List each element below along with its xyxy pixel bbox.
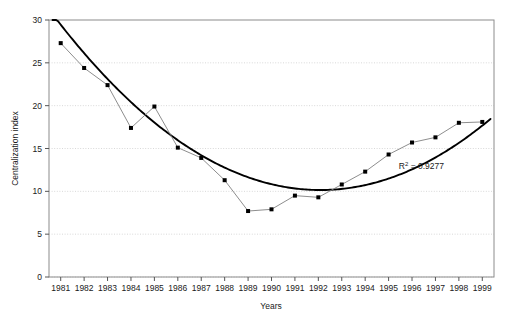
x-axis-ticks: [61, 277, 483, 281]
x-tick-label: 1996: [403, 283, 422, 293]
x-tick-label: 1999: [473, 283, 492, 293]
data-point-marker: [152, 105, 156, 109]
data-point-marker: [363, 170, 367, 174]
r-squared-suffix: = 0.9277: [408, 161, 444, 171]
x-tick-label: 1986: [168, 283, 187, 293]
x-tick-label: 1982: [75, 283, 94, 293]
y-tick-label: 10: [33, 186, 43, 196]
plot-background: [49, 20, 494, 277]
data-point-marker: [176, 146, 180, 150]
y-axis-tick-labels: 051015202530: [33, 15, 43, 282]
y-tick-label: 5: [37, 229, 42, 239]
data-point-marker: [457, 121, 461, 125]
x-tick-label: 1998: [449, 283, 468, 293]
x-tick-label: 1992: [309, 283, 328, 293]
data-point-marker: [340, 182, 344, 186]
x-axis-title: Years: [260, 301, 281, 311]
data-point-marker: [387, 152, 391, 156]
x-tick-label: 1989: [239, 283, 258, 293]
data-point-marker: [270, 207, 274, 211]
y-tick-label: 0: [37, 272, 42, 282]
data-point-marker: [480, 120, 484, 124]
x-tick-label: 1987: [192, 283, 211, 293]
x-tick-label: 1995: [379, 283, 398, 293]
y-axis-title-label: Centralization index: [10, 110, 20, 185]
x-tick-label: 1985: [145, 283, 164, 293]
data-point-marker: [246, 209, 250, 213]
x-tick-label: 1983: [98, 283, 117, 293]
x-axis-tick-labels: 1981198219831984198519861987198819891990…: [51, 283, 492, 293]
y-axis-ticks: [45, 20, 49, 277]
data-point-marker: [223, 178, 227, 182]
data-point-marker: [129, 126, 133, 130]
data-point-marker: [199, 156, 203, 160]
data-point-marker: [316, 195, 320, 199]
y-tick-label: 25: [33, 58, 43, 68]
x-tick-label: 1994: [356, 283, 375, 293]
x-tick-label: 1993: [332, 283, 351, 293]
data-point-marker: [410, 141, 414, 145]
x-tick-label: 1990: [262, 283, 281, 293]
data-point-marker: [293, 194, 297, 198]
y-tick-label: 30: [33, 15, 43, 25]
data-point-marker: [82, 66, 86, 70]
y-tick-label: 20: [33, 101, 43, 111]
x-tick-label: 1997: [426, 283, 445, 293]
x-tick-label: 1984: [122, 283, 141, 293]
y-axis-title: Centralization index: [10, 110, 20, 185]
x-tick-label: 1991: [285, 283, 304, 293]
chart-container: 051015202530 198119821983198419851986198…: [0, 0, 510, 328]
data-point-marker: [433, 135, 437, 139]
data-point-marker: [59, 41, 63, 45]
x-tick-label: 1988: [215, 283, 234, 293]
x-axis-title-label: Years: [260, 301, 281, 311]
data-point-marker: [106, 83, 110, 87]
y-tick-label: 15: [33, 144, 43, 154]
x-tick-label: 1981: [51, 283, 70, 293]
chart-svg: 051015202530 198119821983198419851986198…: [0, 0, 510, 328]
